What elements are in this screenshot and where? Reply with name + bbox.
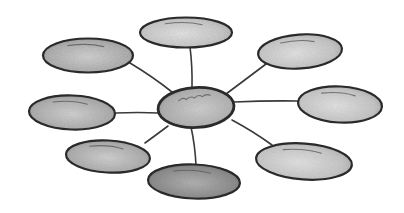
node-top-right xyxy=(257,31,343,71)
connector-right xyxy=(234,101,298,102)
hub-spoke-diagram xyxy=(0,0,404,213)
connector-bottom xyxy=(191,127,196,165)
connector-left xyxy=(115,113,159,114)
connector-bottom-left xyxy=(145,126,168,143)
node-left xyxy=(28,94,115,131)
node-bottom-right xyxy=(255,140,353,183)
node-bottom-left xyxy=(65,138,151,175)
connector-top-left xyxy=(130,63,172,92)
hub-group xyxy=(157,85,235,129)
center-node xyxy=(157,85,235,129)
node-top xyxy=(140,17,232,48)
node-top-left xyxy=(43,38,133,73)
connector-bottom-right xyxy=(232,120,272,145)
node-bottom xyxy=(147,162,240,200)
connector-top-right xyxy=(226,64,266,94)
node-right xyxy=(297,84,383,125)
connector-top xyxy=(190,47,192,88)
